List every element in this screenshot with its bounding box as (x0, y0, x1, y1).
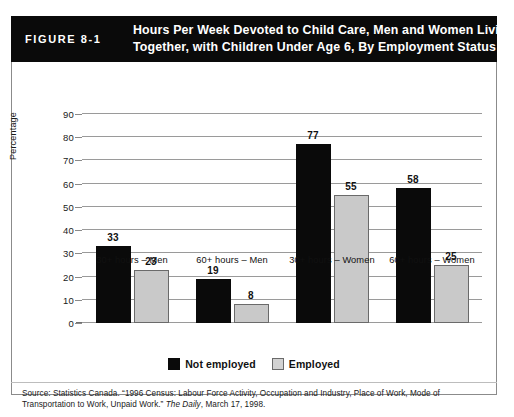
legend-swatch-employed (272, 358, 284, 370)
bar-value-label: 77 (307, 130, 319, 141)
y-axis-tick-label: 90 (48, 109, 74, 120)
source-line-2-post: , March 17, 1998. (201, 400, 266, 409)
bar-value-label: 55 (345, 181, 357, 192)
bar-group: 5825 (396, 114, 469, 323)
y-axis-tick-label: 40 (48, 225, 74, 236)
y-axis-tick-label: 30 (48, 248, 74, 259)
bar-employed: 23 (134, 270, 169, 323)
bar-not-employed: 77 (296, 144, 331, 323)
bar-employed: 25 (434, 265, 469, 323)
legend-label: Not employed (185, 358, 256, 370)
figure-title-line-2: Together, with Children Under Age 6, By … (133, 39, 514, 56)
bar-group: 7755 (296, 114, 369, 323)
y-axis-tick-label: 60 (48, 178, 74, 189)
y-axis-tick-mark (75, 253, 82, 254)
y-axis-tick-mark (75, 160, 82, 161)
source-line-2-pre: to Work, Unpaid Work.” (78, 400, 166, 409)
chart-area: Percentage 0102030405060708090 332319877… (11, 42, 497, 395)
y-axis-tick-mark (75, 277, 82, 278)
y-axis-tick-mark (75, 300, 82, 301)
y-axis-tick-label: 0 (48, 318, 74, 329)
bar-employed: 8 (234, 304, 269, 323)
legend-item: Not employed (168, 358, 256, 370)
bar-not-employed: 19 (196, 279, 231, 323)
figure-title: Hours Per Week Devoted to Child Care, Me… (133, 22, 514, 56)
y-axis-tick-mark (75, 207, 82, 208)
plot-area: 332319877555825 (82, 114, 482, 323)
y-axis-tick-label: 50 (48, 201, 74, 212)
legend-item: Employed (272, 358, 340, 370)
y-axis-tick-mark (75, 323, 82, 324)
bar-group: 198 (196, 114, 269, 323)
y-axis-tick-mark (75, 114, 82, 115)
source-divider (11, 382, 497, 383)
x-axis-category-label: 30+ hours – Women (282, 255, 382, 265)
y-axis-title: Percentage (8, 112, 18, 160)
figure-title-line-1: Hours Per Week Devoted to Child Care, Me… (133, 22, 514, 39)
legend-swatch-not-employed (168, 358, 180, 370)
x-axis-category-label: 60+ hours – Women (382, 255, 482, 265)
bar-value-label: 19 (207, 265, 219, 276)
figure-header-band: FIGURE 8-1 Hours Per Week Devoted to Chi… (11, 16, 497, 62)
y-axis-tick-label: 70 (48, 155, 74, 166)
y-axis-tick-label: 80 (48, 132, 74, 143)
x-axis-category-label: 60+ hours – Men (182, 255, 282, 265)
y-axis-tick-mark (75, 137, 82, 138)
source-publication-name: The Daily (166, 400, 201, 409)
bar-group: 3323 (96, 114, 169, 323)
chart-legend: Not employedEmployed (11, 358, 497, 370)
legend-label: Employed (289, 358, 340, 370)
bar-value-label: 58 (407, 174, 419, 185)
y-axis-tick-marks (75, 114, 82, 323)
y-axis-tick-labels: 0102030405060708090 (44, 114, 74, 323)
figure-number-label: FIGURE 8-1 (25, 33, 133, 45)
y-axis-tick-mark (75, 184, 82, 185)
x-axis-category-label: 30+ hours – Men (82, 255, 182, 265)
y-axis-tick-label: 10 (48, 294, 74, 305)
y-axis-tick-label: 20 (48, 271, 74, 282)
figure-container: FIGURE 8-1 Hours Per Week Devoted to Chi… (11, 16, 497, 395)
bar-value-label: 8 (248, 290, 254, 301)
y-axis-tick-mark (75, 230, 82, 231)
bar-value-label: 33 (107, 232, 119, 243)
source-note: Source: Statistics Canada. “1996 Census:… (22, 388, 484, 410)
